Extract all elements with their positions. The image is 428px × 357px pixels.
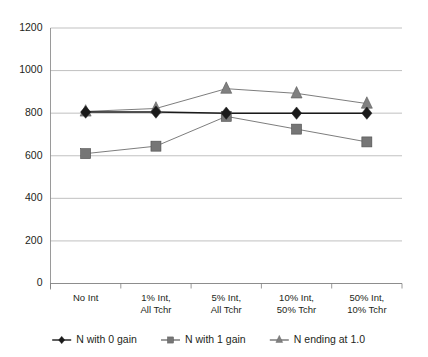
data-point-square (81, 149, 91, 159)
data-point-triangle (291, 87, 302, 98)
chart-legend: N with 0 gainN with 1 gainN ending at 1.… (52, 333, 365, 345)
data-point-triangle (276, 335, 283, 342)
x-axis-tick-label: 1% Int,All Tchr (140, 292, 171, 315)
y-axis-tick-label: 1000 (19, 63, 43, 75)
data-point-diamond (81, 106, 91, 118)
legend-label: N ending at 1.0 (294, 333, 365, 345)
data-point-square (167, 337, 173, 343)
y-axis-tick-label: 800 (25, 106, 43, 118)
series-line (86, 116, 367, 153)
data-point-diamond (291, 107, 301, 119)
x-axis-tick-label: 10% Int,50% Tchr (277, 292, 316, 315)
chart-canvas: 020040060080010001200 No Int1% Int,All T… (0, 0, 428, 357)
legend-item: N ending at 1.0 (270, 333, 365, 345)
y-axis-tick-label: 200 (25, 234, 43, 246)
line-chart: 020040060080010001200 No Int1% Int,All T… (0, 0, 428, 357)
data-point-square (292, 124, 302, 134)
data-point-square (151, 141, 161, 151)
data-point-triangle (361, 97, 372, 108)
data-point-diamond (59, 336, 65, 344)
y-axis-tick-label: 400 (25, 191, 43, 203)
legend-item: N with 1 gain (161, 333, 246, 345)
y-axis-tick-labels: 020040060080010001200 (19, 21, 43, 289)
legend-label: N with 0 gain (76, 333, 137, 345)
y-axis-tick-label: 0 (37, 276, 43, 288)
series-markers (80, 82, 372, 159)
axis-lines (51, 28, 403, 290)
legend-label: N with 1 gain (185, 333, 246, 345)
data-point-triangle (221, 82, 232, 93)
data-point-diamond (362, 107, 372, 119)
y-axis-tick-label: 600 (25, 149, 43, 161)
x-axis-tick-marks (51, 284, 403, 289)
gridlines (51, 28, 403, 284)
data-point-square (362, 137, 372, 147)
y-axis-tick-label: 1200 (19, 21, 43, 33)
legend-item: N with 0 gain (52, 333, 137, 345)
x-axis-tick-label: 50% Int,10% Tchr (347, 292, 386, 315)
x-axis-tick-labels: No Int1% Int,All Tchr5% Int,All Tchr10% … (73, 292, 387, 315)
x-axis-tick-label: No Int (73, 292, 99, 303)
x-axis-tick-label: 5% Int,All Tchr (211, 292, 242, 315)
